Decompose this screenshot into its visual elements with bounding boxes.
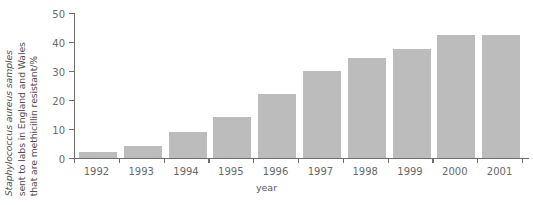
x-axis-tick-label-1995: 1995 bbox=[208, 166, 253, 177]
x-axis-tick-label-1998: 1998 bbox=[343, 166, 388, 177]
y-axis-tick-label: 40 bbox=[52, 37, 65, 48]
bar-chart-figure: Staphylococcus aureus samples sent to la… bbox=[0, 0, 533, 205]
bar-1997 bbox=[303, 71, 341, 158]
x-axis-tick bbox=[298, 158, 299, 163]
bar-2000 bbox=[437, 35, 475, 158]
y-axis-tick: 30 bbox=[69, 71, 74, 72]
x-axis-tick-label-1993: 1993 bbox=[119, 166, 164, 177]
x-axis-tick bbox=[388, 158, 389, 163]
bar-1998 bbox=[348, 58, 386, 158]
bar-1999 bbox=[393, 49, 431, 158]
x-axis-tick-label-1997: 1997 bbox=[298, 166, 343, 177]
bar-1996 bbox=[258, 94, 296, 158]
x-axis-line bbox=[74, 158, 529, 159]
x-axis-tick bbox=[253, 158, 254, 163]
x-axis-tick bbox=[119, 158, 120, 163]
x-axis-title: year bbox=[0, 182, 533, 193]
x-axis-tick bbox=[432, 158, 433, 163]
x-axis-tick-label-1999: 1999 bbox=[388, 166, 433, 177]
y-axis-title-line-1: Staphylococcus aureus samples bbox=[4, 50, 13, 196]
x-axis-tick-label-2000: 2000 bbox=[432, 166, 477, 177]
x-axis-tick-label-2001: 2001 bbox=[477, 166, 522, 177]
y-axis-line bbox=[74, 13, 75, 158]
y-axis-tick-label: 50 bbox=[52, 8, 65, 19]
x-axis-tick-label-1996: 1996 bbox=[253, 166, 298, 177]
x-axis-tick-label-1994: 1994 bbox=[164, 166, 209, 177]
x-axis-tick bbox=[343, 158, 344, 163]
y-axis-tick-label: 20 bbox=[52, 95, 65, 106]
plot-area: 01020304050 bbox=[74, 13, 522, 158]
y-axis-tick-label: 30 bbox=[52, 66, 65, 77]
y-axis-title-line-2: sent to labs in England and Wales bbox=[16, 42, 25, 196]
bar-2001 bbox=[482, 35, 520, 158]
y-axis-tick: 50 bbox=[69, 13, 74, 14]
y-axis-tick-label: 0 bbox=[59, 153, 65, 164]
x-axis-tick bbox=[208, 158, 209, 163]
x-axis-tick bbox=[477, 158, 478, 163]
y-axis-tick: 20 bbox=[69, 100, 74, 101]
y-axis-tick-label: 10 bbox=[52, 124, 65, 135]
y-axis-tick: 40 bbox=[69, 42, 74, 43]
bar-1994 bbox=[169, 132, 207, 158]
bar-1995 bbox=[213, 117, 251, 158]
bar-1993 bbox=[124, 146, 162, 158]
x-axis-tick bbox=[74, 158, 75, 163]
x-axis-tick-label-1992: 1992 bbox=[74, 166, 119, 177]
x-axis-tick bbox=[522, 158, 523, 163]
y-axis-title: Staphylococcus aureus samples sent to la… bbox=[0, 0, 46, 205]
y-axis-title-line-3: that are methicillin resistant/% bbox=[29, 56, 38, 196]
x-axis-tick bbox=[164, 158, 165, 163]
bar-1992 bbox=[79, 152, 117, 158]
y-axis-tick: 10 bbox=[69, 129, 74, 130]
